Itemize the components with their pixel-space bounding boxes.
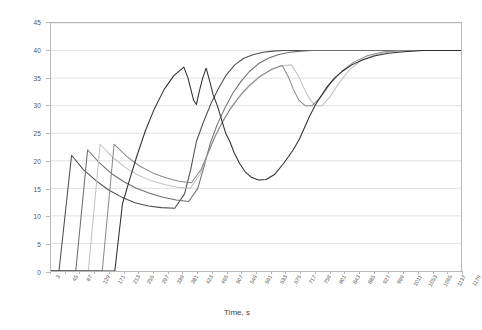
y-tick-label: 35 — [34, 74, 41, 81]
x-tick-label: 969 — [396, 274, 406, 285]
x-tick-mark — [65, 271, 66, 274]
x-tick-mark — [462, 271, 463, 274]
x-tick-mark — [447, 271, 448, 274]
y-tick-label: 10 — [34, 213, 41, 220]
x-tick-mark — [153, 271, 154, 274]
x-tick-label: 1095 — [442, 274, 453, 287]
x-tick-mark — [94, 271, 95, 274]
x-tick-label: 129 — [102, 274, 112, 285]
y-tick-label: 20 — [34, 157, 41, 164]
x-tick-mark — [168, 271, 169, 274]
x-tick-label: 423 — [205, 274, 215, 285]
x-tick-label: 45 — [71, 274, 79, 282]
y-tick-label: 0 — [37, 269, 41, 276]
plot-area — [50, 22, 462, 272]
x-tick-mark — [403, 271, 404, 274]
x-tick-label: 381 — [190, 274, 200, 285]
x-tick-mark — [433, 271, 434, 274]
x-tick-label: 1053 — [427, 274, 438, 287]
x-tick-label: 213 — [131, 274, 141, 285]
x-tick-label: 87 — [85, 274, 93, 282]
x-axis-title: Time, s — [0, 308, 474, 317]
x-tick-mark — [359, 271, 360, 274]
x-tick-label: 591 — [264, 274, 274, 285]
x-tick-mark — [138, 271, 139, 274]
x-tick-label: 717 — [308, 274, 318, 285]
x-tick-label: 885 — [367, 274, 377, 285]
x-tick-mark — [374, 271, 375, 274]
x-tick-label: 507 — [234, 274, 244, 285]
x-axis-tick-labels: 3458712917121325529733938142346550754959… — [50, 274, 462, 308]
x-tick-label: 675 — [293, 274, 303, 285]
x-tick-mark — [285, 271, 286, 274]
y-tick-label: 40 — [34, 46, 41, 53]
x-tick-label: 339 — [175, 274, 185, 285]
x-tick-mark — [212, 271, 213, 274]
x-tick-mark — [315, 271, 316, 274]
x-tick-label: 759 — [322, 274, 332, 285]
x-tick-mark — [79, 271, 80, 274]
y-tick-label: 25 — [34, 130, 41, 137]
x-tick-mark — [256, 271, 257, 274]
x-tick-mark — [388, 271, 389, 274]
x-tick-label: 843 — [352, 274, 362, 285]
y-tick-label: 15 — [34, 185, 41, 192]
x-tick-label: 1011 — [412, 274, 423, 287]
x-tick-mark — [330, 271, 331, 274]
x-tick-mark — [227, 271, 228, 274]
x-tick-mark — [50, 271, 51, 274]
x-tick-mark — [241, 271, 242, 274]
x-tick-label: 1137 — [456, 274, 467, 287]
y-tick-label: 45 — [34, 19, 41, 26]
x-tick-label: 927 — [381, 274, 391, 285]
x-tick-mark — [418, 271, 419, 274]
y-tick-label: 5 — [37, 241, 41, 248]
x-tick-mark — [197, 271, 198, 274]
series-lines — [51, 23, 461, 271]
x-tick-mark — [344, 271, 345, 274]
x-tick-mark — [109, 271, 110, 274]
x-tick-mark — [300, 271, 301, 274]
x-tick-mark — [271, 271, 272, 274]
x-tick-label: 1179 — [471, 274, 482, 287]
x-tick-label: 255 — [146, 274, 156, 285]
x-tick-label: 3 — [55, 274, 62, 280]
x-tick-label: 171 — [116, 274, 126, 285]
x-tick-label: 465 — [219, 274, 229, 285]
x-tick-mark — [182, 271, 183, 274]
y-tick-label: 30 — [34, 102, 41, 109]
x-tick-mark — [124, 271, 125, 274]
series-line-4 — [51, 51, 461, 271]
x-tick-label: 549 — [249, 274, 259, 285]
x-tick-label: 633 — [278, 274, 288, 285]
x-tick-label: 801 — [337, 274, 347, 285]
x-tick-label: 297 — [161, 274, 171, 285]
y-axis-tick-labels: 051015202530354045 — [0, 22, 46, 272]
